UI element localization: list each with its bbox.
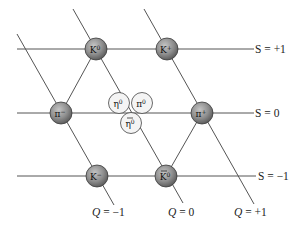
particle-pi-zero: π0 (132, 93, 153, 114)
label-s-minus-1: S = −1 (258, 170, 289, 182)
meson-octet-diagram: K0 K+ π− π+ η0 π0 η0 K− K0 S = +1 S = 0 … (0, 0, 308, 229)
label-q-zero: Q = 0 (168, 206, 195, 218)
particle-k-minus: K− (86, 165, 108, 187)
particle-k-plus: K+ (156, 38, 178, 60)
label-q-plus-1: Q = +1 (234, 206, 267, 218)
particle-k-bar-zero: K0 (155, 165, 177, 187)
label-q-minus-1: Q = −1 (92, 206, 125, 218)
particle-eta-zero: η0 (109, 93, 130, 114)
particle-pi-plus: π+ (191, 102, 213, 124)
label-s-plus-1: S = +1 (255, 43, 286, 55)
particle-pi-minus: π− (50, 102, 72, 124)
label-s-zero: S = 0 (255, 107, 280, 119)
particle-k-zero: K0 (85, 38, 107, 60)
particle-eta-prime-zero: η0 (121, 113, 142, 134)
